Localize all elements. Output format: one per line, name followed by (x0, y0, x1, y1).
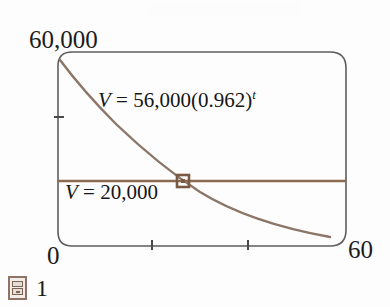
equation-body: = 56,000(0.962) (111, 88, 252, 112)
calculator-keys (12, 288, 23, 295)
plot-frame (58, 52, 346, 246)
exponential-decay-curve (60, 60, 330, 237)
y-axis-max-label: 60,000 (29, 27, 98, 52)
x-axis-min-label: 0 (47, 243, 60, 268)
intersection-marker-inner (181, 179, 185, 183)
equation-variable-v: V (65, 180, 78, 204)
equation-body: = 20,000 (78, 180, 158, 204)
equation-variable-v: V (98, 88, 111, 112)
figure-container: 60,000 0 60 V = 56,000(0.962)t V = 20,00… (0, 0, 390, 307)
exponential-equation-label: V = 56,000(0.962)t (98, 88, 256, 111)
figure-caption: 1 (8, 276, 48, 300)
graphing-calculator-icon (8, 276, 27, 300)
equation-exponent-t: t (252, 87, 256, 102)
figure-caption-number: 1 (36, 276, 48, 300)
calculator-screen (12, 281, 23, 287)
constant-equation-label: V = 20,000 (65, 182, 158, 203)
x-axis-max-label: 60 (348, 237, 373, 262)
